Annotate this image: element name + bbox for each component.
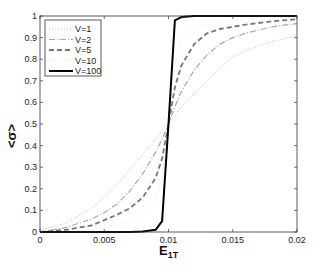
y-tick-label: 0.8 bbox=[24, 54, 37, 64]
legend-label: V=2 bbox=[75, 35, 91, 45]
y-tick-label: 0 bbox=[32, 227, 37, 237]
y-tick-label: 0.9 bbox=[24, 33, 37, 43]
y-tick-label: 0.7 bbox=[24, 76, 37, 86]
y-tick-label: 1 bbox=[32, 11, 37, 21]
y-tick-label: 0.4 bbox=[24, 141, 37, 151]
y-tick-label: 0.2 bbox=[24, 184, 37, 194]
y-tick-label: 0.1 bbox=[24, 205, 37, 215]
x-axis-title: E1T bbox=[159, 243, 179, 260]
y-tick-label: 0.6 bbox=[24, 97, 37, 107]
y-axis-title: <σ> bbox=[4, 124, 19, 148]
x-tick-label: 0 bbox=[37, 235, 42, 245]
x-tick-label: 0.005 bbox=[93, 235, 116, 245]
x-tick-label: 0.015 bbox=[221, 235, 244, 245]
legend-label: V=1 bbox=[75, 24, 91, 34]
legend-label: V=10 bbox=[75, 56, 96, 66]
y-tick-label: 0.5 bbox=[24, 119, 37, 129]
legend-label: V=5 bbox=[75, 45, 91, 55]
legend: V=1V=2V=5V=10V=100 bbox=[45, 20, 101, 76]
legend-label: V=100 bbox=[75, 66, 101, 76]
y-tick-label: 0.3 bbox=[24, 162, 37, 172]
chart: 00.0050.010.0150.02 00.10.20.30.40.50.60… bbox=[0, 0, 321, 268]
x-tick-label: 0.02 bbox=[288, 235, 306, 245]
